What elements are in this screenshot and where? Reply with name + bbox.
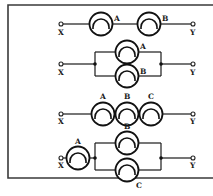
- bulb-label: B: [140, 67, 146, 76]
- circuit-series-ab: X Y A B: [58, 13, 196, 38]
- bulb-icon: [140, 103, 163, 126]
- terminal-y: [191, 112, 195, 116]
- circuit-series-parallel-abc: X Y A B C: [58, 122, 196, 190]
- bulb-label: B: [124, 122, 130, 131]
- bulb-label: C: [148, 92, 154, 101]
- terminal-x: [59, 22, 63, 26]
- terminal-x: [59, 62, 63, 66]
- bulb-label: B: [124, 92, 130, 101]
- bulb-icon: [116, 65, 139, 88]
- bulb-label: A: [99, 92, 106, 101]
- junction-dot: [93, 62, 97, 66]
- terminal-x: [59, 112, 63, 116]
- terminal-x-label: X: [58, 28, 64, 37]
- circuit-parallel-ab: X Y A B: [58, 41, 196, 88]
- terminal-y: [191, 22, 195, 26]
- terminal-x-label: X: [58, 117, 64, 126]
- bulb-label: A: [139, 42, 146, 51]
- bulb-icon: [116, 41, 139, 64]
- terminal-x-label: X: [58, 161, 64, 170]
- bulb-icon: [92, 103, 115, 126]
- terminal-x-label: X: [58, 68, 64, 77]
- terminal-y-label: Y: [189, 68, 196, 77]
- bulb-label: A: [113, 14, 120, 23]
- bulb-icon: [90, 13, 113, 36]
- terminal-y: [191, 156, 195, 160]
- junction-dot: [159, 62, 163, 66]
- terminal-y-label: Y: [189, 161, 196, 170]
- junction-dot: [159, 156, 163, 160]
- bulb-icon: [138, 13, 161, 36]
- bulb-icon: [67, 147, 90, 170]
- bulb-icon: [116, 159, 139, 182]
- junction-dot: [93, 156, 97, 160]
- terminal-y-label: Y: [189, 28, 196, 37]
- bulb-label: B: [162, 14, 168, 23]
- bulb-icon: [116, 132, 139, 155]
- circuit-series-abc: X Y A B C: [58, 92, 196, 126]
- terminal-y: [191, 62, 195, 66]
- terminal-y-label: Y: [189, 117, 196, 126]
- bulb-label: A: [74, 137, 81, 146]
- terminal-x: [59, 156, 63, 160]
- circuit-diagram: X Y A B X Y A B X Y A: [0, 0, 213, 196]
- bulb-label: C: [136, 181, 142, 190]
